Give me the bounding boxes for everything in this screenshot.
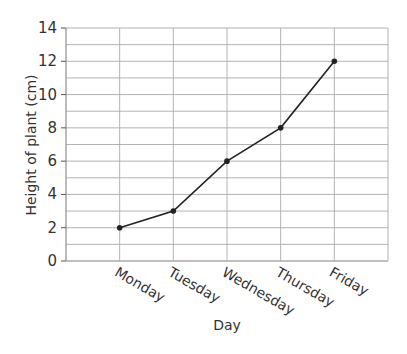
- x-axis-ticks: MondayTuesdayWednesdayThursdayFriday: [112, 263, 371, 318]
- data-point: [224, 158, 230, 164]
- y-tick-label: 2: [47, 219, 57, 237]
- y-tick-label: 0: [47, 252, 57, 270]
- y-tick-label: 10: [38, 86, 57, 104]
- x-tick-label: Tuesday: [165, 263, 223, 306]
- x-tick-label: Monday: [112, 264, 168, 305]
- line-chart: 02468101214 MondayTuesdayWednesdayThursd…: [0, 0, 407, 354]
- data-point: [171, 208, 177, 214]
- y-tick-label: 8: [47, 119, 57, 137]
- y-tick-label: 14: [38, 19, 57, 37]
- data-point: [117, 225, 123, 231]
- y-tick-label: 4: [47, 185, 57, 203]
- y-tick-label: 12: [38, 52, 57, 70]
- data-point: [278, 125, 284, 131]
- y-axis-ticks: 02468101214: [38, 19, 66, 270]
- grid-lines: [66, 28, 388, 261]
- data-point: [332, 58, 338, 64]
- y-axis-label: Height of plant (cm): [23, 74, 39, 215]
- x-axis-label: Day: [213, 317, 241, 333]
- y-tick-label: 6: [47, 152, 57, 170]
